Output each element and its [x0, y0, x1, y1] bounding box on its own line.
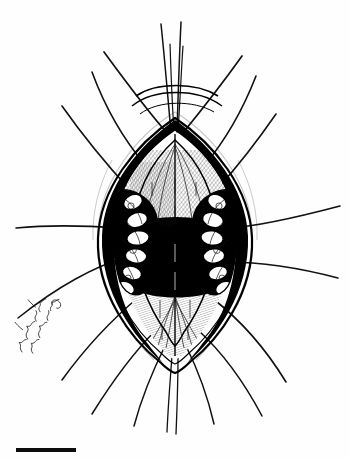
figure-canvas: Black and white ink drawing of a mite-li…	[0, 0, 349, 459]
scale-bar	[16, 448, 76, 452]
illustration-svg: illegible cursive signature illegible cu…	[0, 0, 349, 459]
scale-bar-group	[16, 448, 76, 452]
